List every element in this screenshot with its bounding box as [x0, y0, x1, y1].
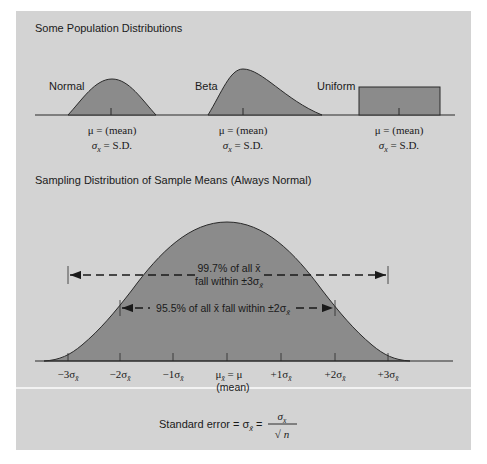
range-997-line1: 99.7% of all x̄: [197, 262, 261, 274]
uniform-sd-label: σx = S.D.: [379, 139, 420, 154]
sampling-title: Sampling Distribution of Sample Means (A…: [35, 174, 311, 186]
tick-label-minus1: −1σx̄: [163, 368, 185, 383]
uniform-distribution: Uniform μ = (mean) σx = S.D.: [317, 80, 440, 154]
standard-error-formula: Standard error = σx̄ = σx √ n: [159, 410, 297, 440]
tick-label-mean-note: (mean): [216, 381, 249, 393]
tick-label-plus3: +3σx̄: [378, 368, 400, 383]
tick-label-plus2: +2σx̄: [325, 368, 347, 383]
tick-labels: −3σx̄ −2σx̄ −1σx̄ μx̄ = μ (mean) +1σx̄ +…: [58, 368, 400, 393]
range-997-arrow: 99.7% of all x̄ fall within ±3σx̄: [68, 262, 388, 290]
uniform-label: Uniform: [317, 80, 356, 92]
tick-label-minus3: −3σx̄: [58, 368, 80, 383]
beta-mean-label: μ = (mean): [219, 124, 268, 137]
diagram-canvas: Some Population Distributions Normal μ =…: [0, 0, 487, 464]
formula-numerator: σx: [278, 410, 287, 425]
normal-mean-label: μ = (mean): [88, 124, 137, 137]
formula-left: Standard error = σx̄ =: [159, 418, 263, 433]
tick-label-minus2: −2σx̄: [110, 368, 132, 383]
tick-label-plus1: +1σx̄: [271, 368, 293, 383]
uniform-mean-label: μ = (mean): [375, 124, 424, 137]
normal-label: Normal: [49, 80, 84, 92]
beta-label: Beta: [195, 80, 219, 92]
normal-distribution: Normal μ = (mean) σx = S.D.: [49, 79, 156, 154]
population-title: Some Population Distributions: [35, 22, 183, 34]
beta-sd-label: σx = S.D.: [223, 139, 264, 154]
beta-distribution: Beta μ = (mean) σx = S.D.: [195, 69, 322, 154]
normal-sd-label: σx = S.D.: [92, 139, 133, 154]
sampling-distribution-curve: [44, 222, 410, 361]
formula-denominator: √ n: [275, 428, 290, 440]
